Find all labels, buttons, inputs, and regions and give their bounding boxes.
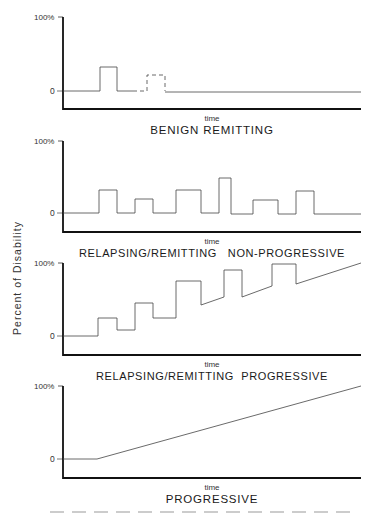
panel-title: RELAPSING/REMITTING NON-PROGRESSIVE xyxy=(79,247,345,259)
ytick-0: 0 xyxy=(50,454,55,464)
y-axis xyxy=(63,17,361,109)
ytick-0: 0 xyxy=(50,331,55,341)
y-axis xyxy=(63,386,361,478)
y-axis xyxy=(63,263,361,355)
panel-benign-remitting: 100% 0 time BENIGN REMITTING xyxy=(34,13,361,136)
cropped-caption xyxy=(50,507,350,515)
ytick-100: 100% xyxy=(34,382,54,391)
series-disability xyxy=(63,178,361,214)
panel-title: BENIGN REMITTING xyxy=(150,124,273,136)
y-axis xyxy=(63,141,361,232)
panel-title: RELAPSING/REMITTING PROGRESSIVE xyxy=(96,370,328,382)
x-axis-label: time xyxy=(204,483,220,492)
series-disability xyxy=(63,263,361,336)
y-axis-label-text: Percent of Disability xyxy=(11,221,23,335)
x-axis-label: time xyxy=(204,360,220,369)
cropped-caption-line xyxy=(50,511,350,513)
x-axis-label: time xyxy=(204,237,220,246)
series-relapse-2-dashed xyxy=(133,75,165,91)
ytick-100: 100% xyxy=(34,137,54,146)
ytick-0: 0 xyxy=(50,208,55,218)
panel-relapsing-remitting-progressive: 100% 0 time RELAPSING/REMITTING PROGRESS… xyxy=(34,259,361,382)
panel-progressive: 100% 0 time PROGRESSIVE xyxy=(34,382,361,505)
series-relapse-1 xyxy=(63,67,133,91)
ytick-100: 100% xyxy=(34,13,54,22)
panel-relapsing-remitting-non-progressive: 100% 0 time RELAPSING/REMITTING NON-PROG… xyxy=(34,137,361,259)
series-disability xyxy=(63,386,361,459)
ytick-100: 100% xyxy=(34,259,54,268)
x-axis-label: time xyxy=(204,114,220,123)
ms-course-figure: 100% 0 time BENIGN REMITTING 100% 0 time… xyxy=(0,0,373,515)
panel-title: PROGRESSIVE xyxy=(166,493,259,505)
ytick-0: 0 xyxy=(50,86,55,96)
y-axis-label: Percent of Disability xyxy=(3,200,31,355)
